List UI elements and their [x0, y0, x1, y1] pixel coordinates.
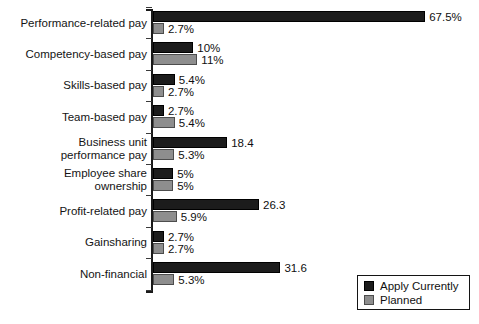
- bar-value-current-profit-related-pay: 26.3: [263, 200, 285, 211]
- category-label-team-based-pay: Team-based pay: [0, 111, 147, 124]
- category-label-performance-related-pay: Performance-related pay: [0, 17, 147, 30]
- bar-current-team-based-pay: [153, 105, 164, 116]
- category-label-non-financial: Non-financial: [0, 268, 147, 281]
- axis-tick: [146, 70, 152, 71]
- bar-value-current-employee-share-ownership: 5%: [177, 169, 194, 180]
- axis-tick: [146, 290, 152, 291]
- chart-legend: Apply Currently Planned: [357, 275, 470, 310]
- category-label-profit-related-pay: Profit-related pay: [0, 205, 147, 218]
- axis-tick: [146, 7, 152, 8]
- axis-cap-bottom: [146, 291, 153, 293]
- bar-chart: Performance-related pay67.5%2.7%Competen…: [0, 0, 479, 324]
- bar-value-current-business-unit-performance-pay: 18.4: [231, 138, 253, 149]
- legend-label: Apply Currently: [380, 280, 459, 292]
- category-label-business-unit-performance-pay: Business unit performance pay: [0, 136, 147, 162]
- bar-value-planned-non-financial: 5.3%: [178, 275, 204, 286]
- legend-swatch-icon: [364, 281, 374, 291]
- category-label-gainsharing: Gainsharing: [0, 236, 147, 249]
- bar-current-profit-related-pay: [153, 199, 259, 210]
- bar-value-current-skills-based-pay: 5.4%: [179, 75, 205, 86]
- legend-item-apply-currently: Apply Currently: [364, 279, 459, 293]
- bar-value-current-competency-based-pay: 10%: [197, 43, 220, 54]
- legend-swatch-icon: [364, 295, 374, 305]
- category-label-skills-based-pay: Skills-based pay: [0, 79, 147, 92]
- bar-planned-business-unit-performance-pay: [153, 149, 174, 160]
- bar-planned-profit-related-pay: [153, 211, 177, 222]
- bar-value-planned-business-unit-performance-pay: 5.3%: [178, 150, 204, 161]
- bar-planned-performance-related-pay: [153, 23, 164, 34]
- axis-tick: [146, 133, 152, 134]
- bar-value-current-non-financial: 31.6: [284, 263, 306, 274]
- bar-planned-employee-share-ownership: [153, 180, 173, 191]
- bar-current-employee-share-ownership: [153, 168, 173, 179]
- bar-current-non-financial: [153, 262, 280, 273]
- bar-current-performance-related-pay: [153, 11, 425, 22]
- bar-planned-gainsharing: [153, 243, 164, 254]
- bar-value-planned-skills-based-pay: 2.7%: [168, 87, 194, 98]
- bar-value-planned-gainsharing: 2.7%: [168, 244, 194, 255]
- bar-value-planned-performance-related-pay: 2.7%: [168, 24, 194, 35]
- bar-value-planned-profit-related-pay: 5.9%: [181, 212, 207, 223]
- category-label-employee-share-ownership: Employee share ownership: [0, 167, 147, 193]
- axis-tick: [146, 195, 152, 196]
- bar-current-business-unit-performance-pay: [153, 137, 227, 148]
- axis-tick: [146, 258, 152, 259]
- bar-value-planned-employee-share-ownership: 5%: [177, 181, 194, 192]
- bar-planned-competency-based-pay: [153, 54, 197, 65]
- axis-tick: [146, 101, 152, 102]
- bar-current-gainsharing: [153, 231, 164, 242]
- bar-value-current-gainsharing: 2.7%: [168, 232, 194, 243]
- axis-tick: [146, 164, 152, 165]
- category-label-competency-based-pay: Competency-based pay: [0, 48, 147, 61]
- legend-label: Planned: [380, 294, 422, 306]
- bar-planned-non-financial: [153, 274, 174, 285]
- bar-current-skills-based-pay: [153, 74, 175, 85]
- axis-tick: [146, 227, 152, 228]
- bar-value-current-performance-related-pay: 67.5%: [429, 12, 462, 23]
- legend-item-planned: Planned: [364, 293, 422, 307]
- bar-current-competency-based-pay: [153, 42, 193, 53]
- bar-value-planned-team-based-pay: 5.4%: [179, 118, 205, 129]
- bar-planned-team-based-pay: [153, 117, 175, 128]
- axis-tick: [146, 38, 152, 39]
- bar-value-planned-competency-based-pay: 11%: [201, 55, 223, 66]
- bar-planned-skills-based-pay: [153, 86, 164, 97]
- axis-cap-top: [146, 9, 153, 11]
- bar-value-current-team-based-pay: 2.7%: [168, 106, 194, 117]
